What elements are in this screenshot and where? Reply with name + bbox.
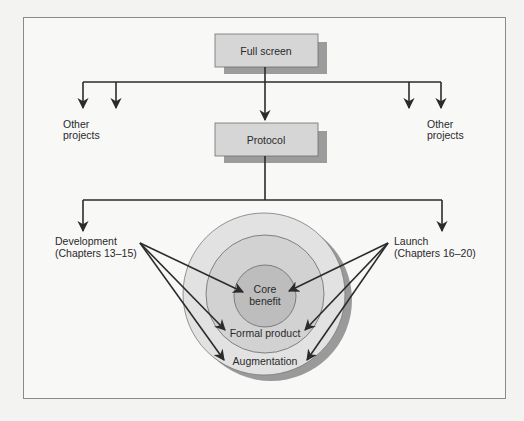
core-benefit-label-2: benefit xyxy=(249,295,281,307)
formal-product-label: Formal product xyxy=(230,327,301,339)
augmentation-label: Augmentation xyxy=(233,355,298,367)
svg-text:projects: projects xyxy=(427,129,464,141)
protocol-label: Protocol xyxy=(247,134,286,146)
svg-text:(Chapters 16–20): (Chapters 16–20) xyxy=(394,247,476,259)
svg-text:projects: projects xyxy=(63,129,100,141)
launch-label: Launch (Chapters 16–20) xyxy=(394,235,476,259)
svg-text:(Chapters 13–15): (Chapters 13–15) xyxy=(55,247,137,259)
full-screen-label: Full screen xyxy=(240,45,292,57)
development-label: Development (Chapters 13–15) xyxy=(55,235,137,259)
top-connectors xyxy=(83,67,441,120)
product-concept-diagram: Full screen Other projects Other project… xyxy=(0,0,524,421)
protocol-box: Protocol xyxy=(215,123,327,163)
svg-text:Launch: Launch xyxy=(394,235,429,247)
other-projects-right: Other projects xyxy=(427,118,464,141)
core-benefit-label-1: Core xyxy=(254,283,277,295)
full-screen-box: Full screen xyxy=(215,34,327,74)
svg-text:Development: Development xyxy=(55,235,117,247)
product-rings: Core benefit Formal product Augmentation xyxy=(183,213,352,381)
other-projects-left: Other projects xyxy=(63,118,100,141)
